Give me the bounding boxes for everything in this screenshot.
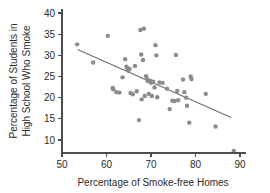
data-point <box>155 95 159 99</box>
x-axis-tick-label: 90 <box>234 159 246 170</box>
x-axis-tick-labels: 5060708090 <box>56 159 246 170</box>
data-point <box>153 43 157 47</box>
data-point <box>131 92 135 96</box>
data-point <box>141 58 145 62</box>
y-axis-tick-label: 25 <box>44 71 56 82</box>
data-point <box>142 26 146 30</box>
data-point <box>151 79 155 83</box>
data-point <box>133 64 137 68</box>
trend-line <box>78 49 232 117</box>
data-point <box>175 89 179 93</box>
data-point <box>174 53 178 57</box>
data-point <box>213 124 217 128</box>
data-point <box>106 34 110 38</box>
data-point <box>139 52 143 56</box>
data-point <box>139 97 143 101</box>
x-axis-tick-label: 60 <box>101 159 113 170</box>
data-point <box>75 42 79 46</box>
data-point <box>160 81 164 85</box>
data-point <box>182 90 186 94</box>
data-point <box>150 94 154 98</box>
data-point <box>204 92 208 96</box>
x-axis-tick-label: 70 <box>145 159 157 170</box>
data-point <box>152 85 156 89</box>
y-axis-title: Percentage of Students inHigh School Who… <box>8 23 32 138</box>
y-axis-tick-label: 15 <box>44 113 56 124</box>
data-point <box>137 118 141 122</box>
scatter-chart-figure: 5060708090 10152025303540 Percentage of … <box>0 0 270 193</box>
data-point <box>127 67 131 71</box>
data-points-group <box>75 26 236 153</box>
y-axis-tick-label: 20 <box>44 92 56 103</box>
regression-line <box>78 49 232 117</box>
data-point <box>187 120 191 124</box>
data-point <box>117 90 121 94</box>
data-point <box>123 57 127 61</box>
y-axis-title-line: Percentage of Students in <box>8 23 19 138</box>
y-axis-tick-label: 35 <box>44 29 56 40</box>
y-axis-tick-labels: 10152025303540 <box>44 8 56 146</box>
axis-ticks-group <box>58 13 240 157</box>
data-point <box>143 94 147 98</box>
x-axis-tick-label: 50 <box>56 159 68 170</box>
data-point <box>135 89 139 93</box>
data-point <box>184 95 188 99</box>
data-point <box>181 77 185 81</box>
y-axis-title-line: High School Who Smoke <box>21 25 32 137</box>
data-point <box>185 104 189 108</box>
data-point <box>167 107 171 111</box>
data-point <box>189 77 193 81</box>
x-axis-title: Percentage of Smoke-free Homes <box>77 177 228 188</box>
y-axis-tick-label: 10 <box>44 135 56 146</box>
data-point <box>120 75 124 79</box>
y-axis-tick-label: 30 <box>44 50 56 61</box>
data-point <box>165 87 169 91</box>
chart-canvas: 5060708090 10152025303540 Percentage of … <box>0 0 270 193</box>
data-point <box>176 98 180 102</box>
data-point <box>154 53 158 57</box>
x-axis-tick-label: 80 <box>190 159 202 170</box>
data-point <box>91 60 95 64</box>
y-axis-tick-label: 40 <box>44 8 56 19</box>
